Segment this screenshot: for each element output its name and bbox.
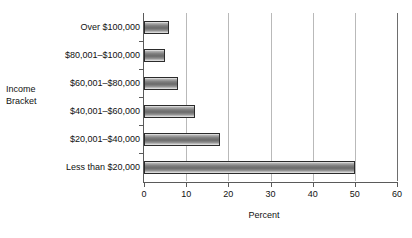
x-axis-tick-label: 30 [256,189,286,199]
x-axis-tick [397,183,398,187]
gridline-20 [228,13,229,181]
y-axis-tick-label: $60,001–$80,000 [36,78,140,89]
x-axis-tick [186,183,187,187]
x-axis-tick [144,183,145,187]
x-axis-tick-label: 10 [171,189,201,199]
y-axis-tick-label: $40,001–$60,000 [36,106,140,117]
gridline-60 [397,13,398,181]
x-axis-title: Percent [0,210,412,220]
x-axis-tick [271,183,272,187]
bar [144,105,195,118]
y-axis-tick-labels: Over $100,000$80,001–$100,000$60,001–$80… [36,13,140,181]
bar-chart: Income Bracket Over $100,000$80,001–$100… [0,0,412,238]
gridline-10 [186,13,187,181]
bar [144,49,165,62]
x-axis-tick [355,183,356,187]
bar [144,133,220,146]
y-axis-tick-label: Over $100,000 [36,22,140,33]
bar [144,161,355,174]
y-axis-tick-label: Less than $20,000 [36,162,140,173]
gridline-30 [271,13,272,181]
x-axis-tick [228,183,229,187]
plot-area [144,13,397,181]
x-axis-tick-label: 20 [213,189,243,199]
bar [144,77,178,90]
y-axis-tick-label: $20,001–$40,000 [36,134,140,145]
gridline-40 [313,13,314,181]
x-axis-tick-label: 60 [382,189,412,199]
gridline-50 [355,13,356,181]
y-axis-tick-label: $80,001–$100,000 [36,50,140,61]
x-axis-tick-label: 40 [298,189,328,199]
x-axis-tick [313,183,314,187]
x-axis-tick-label: 0 [129,189,159,199]
bar [144,21,169,34]
x-axis-tick-label: 50 [340,189,370,199]
